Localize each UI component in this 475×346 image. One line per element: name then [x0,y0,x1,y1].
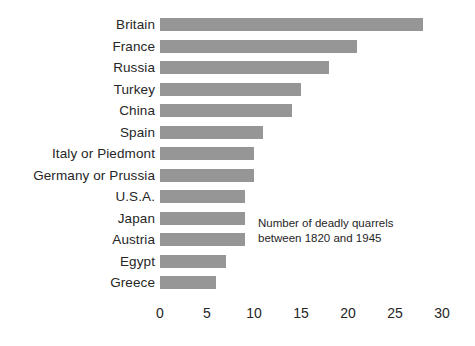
plot-area: Britain France Russia Turkey [0,0,475,346]
bar-row: Italy or Piedmont [0,143,475,165]
bar-track [160,83,301,96]
bar [160,276,216,289]
category-label: Turkey [5,82,155,97]
x-tick-label: 30 [434,304,450,322]
annotation-line-1: Number of deadly quarrels [258,216,448,231]
chart-annotation: Number of deadly quarrels between 1820 a… [258,216,448,246]
bar-row: China [0,100,475,122]
bar-track [160,61,329,74]
bar-track [160,233,245,246]
bar-row: Egypt [0,251,475,273]
bar [160,255,226,268]
bar-row: Russia [0,57,475,79]
bar [160,147,254,160]
x-tick-label: 5 [203,304,211,322]
x-tick-label: 20 [340,304,356,322]
bar [160,104,292,117]
category-label: Germany or Prussia [5,168,155,183]
bar-row: U.S.A. [0,186,475,208]
category-label: Spain [5,125,155,140]
bar-row: Germany or Prussia [0,165,475,187]
category-label: Greece [5,275,155,290]
bar-row: Spain [0,122,475,144]
bar-track [160,190,245,203]
bar [160,18,423,31]
category-label: Britain [5,17,155,32]
bar [160,83,301,96]
bar-row: Greece [0,272,475,294]
category-label: Austria [5,232,155,247]
bar-track [160,276,216,289]
bar-track [160,126,263,139]
x-tick-label: 10 [246,304,262,322]
bar [160,169,254,182]
bar-track [160,40,357,53]
bar-track [160,104,292,117]
category-label: Italy or Piedmont [5,146,155,161]
bar [160,61,329,74]
bar-row: France [0,36,475,58]
category-label: France [5,39,155,54]
bar-track [160,147,254,160]
bar-track [160,169,254,182]
category-label: China [5,103,155,118]
category-label: Russia [5,60,155,75]
bar [160,212,245,225]
bar-chart: Britain France Russia Turkey [0,0,475,346]
bar-track [160,212,245,225]
x-axis: 0 5 10 15 20 25 30 [0,304,475,328]
bar-track [160,18,423,31]
x-tick-label: 0 [156,304,164,322]
x-tick-label: 25 [387,304,403,322]
x-tick-label: 15 [293,304,309,322]
annotation-line-2: between 1820 and 1945 [258,231,448,246]
category-label: U.S.A. [5,189,155,204]
bar-row: Britain [0,14,475,36]
bar [160,190,245,203]
category-label: Egypt [5,254,155,269]
bar [160,40,357,53]
bar-row: Turkey [0,79,475,101]
bar [160,126,263,139]
category-label: Japan [5,211,155,226]
bar-track [160,255,226,268]
bar [160,233,245,246]
